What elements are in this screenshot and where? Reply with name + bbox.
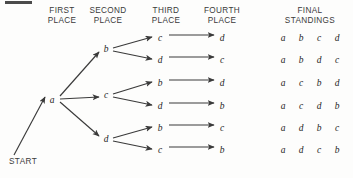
edge-n-a-to-n-b1: [60, 52, 99, 96]
standing-row-2-pos-1: a: [277, 55, 289, 65]
standing-row-4-pos-4: b: [331, 101, 343, 111]
node-n-d1: d: [100, 134, 112, 144]
node-n-4-r2: c: [216, 55, 228, 65]
standing-row-1-pos-1: a: [277, 33, 289, 43]
edge-n-a-to-n-c1: [60, 97, 99, 99]
node-n-4-r6: b: [216, 145, 228, 155]
node-n-4-r5: c: [216, 123, 228, 133]
edge-n-b1-to-n-3-r2: [113, 51, 152, 59]
edge-n-c1-to-n-3-r4: [113, 97, 152, 105]
edge-start-to-n-a: [14, 97, 45, 155]
standing-row-3-pos-3: b: [313, 78, 325, 88]
standing-row-2-pos-3: d: [313, 55, 325, 65]
standing-row-6-pos-1: a: [277, 145, 289, 155]
standing-row-6-pos-2: d: [295, 145, 307, 155]
standing-row-5-pos-4: c: [331, 123, 343, 133]
edge-n-d1-to-n-3-r5: [113, 127, 152, 138]
standing-row-1-pos-4: d: [331, 33, 343, 43]
standing-row-6-pos-3: c: [313, 145, 325, 155]
node-n-4-r1: d: [216, 33, 228, 43]
standing-row-1-pos-2: b: [295, 33, 307, 43]
standing-row-2-pos-2: b: [295, 55, 307, 65]
node-n-4-r3: d: [216, 78, 228, 88]
standing-row-4-pos-3: d: [313, 101, 325, 111]
standing-row-5-pos-1: a: [277, 123, 289, 133]
standing-row-5-pos-2: d: [295, 123, 307, 133]
node-n-4-r4: b: [216, 101, 228, 111]
node-n-3-r6: c: [154, 145, 166, 155]
node-n-3-r3: b: [154, 78, 166, 88]
column-header-final-standings: FINAL STANDINGS: [270, 6, 350, 26]
standing-row-3-pos-2: c: [295, 78, 307, 88]
edge-n-c1-to-n-3-r3: [113, 82, 152, 94]
node-n-b1: b: [100, 44, 112, 54]
start-label: START: [9, 157, 37, 166]
edge-n-d1-to-n-3-r6: [113, 141, 152, 149]
standing-row-2-pos-4: c: [331, 55, 343, 65]
edge-group: [14, 35, 214, 155]
standing-row-3-pos-4: d: [331, 78, 343, 88]
node-n-3-r2: d: [154, 55, 166, 65]
standing-row-4-pos-2: c: [295, 101, 307, 111]
node-n-c1: c: [100, 90, 112, 100]
standing-row-6-pos-4: b: [331, 145, 343, 155]
standing-row-3-pos-1: a: [277, 78, 289, 88]
node-n-a: a: [46, 95, 58, 105]
standing-row-4-pos-1: a: [277, 101, 289, 111]
edge-n-a-to-n-d1: [60, 102, 99, 136]
node-n-3-r5: b: [154, 123, 166, 133]
column-header-fourth-place: FOURTH PLACE: [182, 6, 262, 26]
node-n-3-r1: c: [154, 33, 166, 43]
standing-row-5-pos-3: b: [313, 123, 325, 133]
figure-canvas: FIRST PLACESECOND PLACETHIRD PLACEFOURTH…: [0, 0, 353, 178]
edge-n-b1-to-n-3-r1: [113, 37, 152, 48]
node-n-3-r4: d: [154, 101, 166, 111]
standing-row-1-pos-3: c: [313, 33, 325, 43]
